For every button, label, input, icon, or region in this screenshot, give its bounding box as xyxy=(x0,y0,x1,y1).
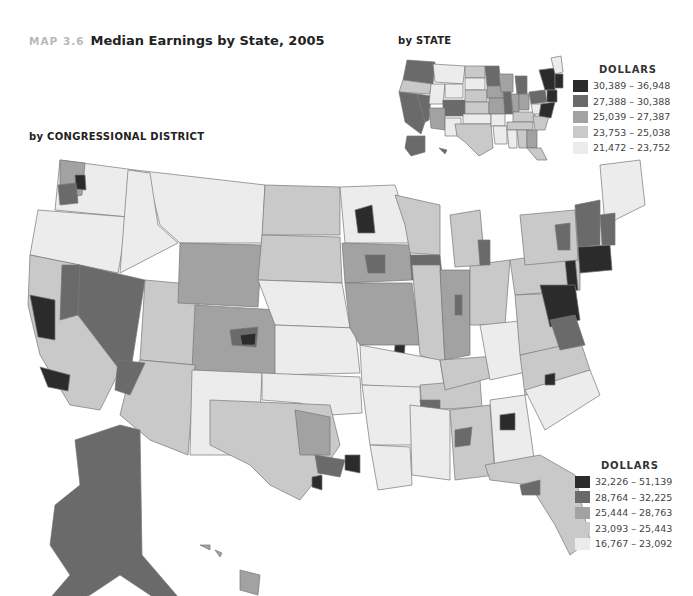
district-legend-item: 32,226 – 51,139 xyxy=(575,474,672,490)
state-legend-item: 30,389 – 36,948 xyxy=(573,78,670,94)
legend-swatch xyxy=(575,522,590,534)
legend-swatch xyxy=(573,142,588,154)
district-legend-item: 25,444 – 28,763 xyxy=(575,505,672,521)
state-legend-item: 27,388 – 30,388 xyxy=(573,94,670,110)
legend-swatch xyxy=(575,538,590,550)
legend-swatch xyxy=(573,95,588,107)
main-subtitle: by CONGRESSIONAL DISTRICT xyxy=(29,131,204,142)
district-legend-item: 28,764 – 32,225 xyxy=(575,490,672,506)
legend-swatch xyxy=(573,80,588,92)
district-legend-item: 16,767 – 23,092 xyxy=(575,536,672,552)
district-legend: DOLLARS 32,226 – 51,139 28,764 – 32,225 … xyxy=(575,460,672,552)
state-legend-item: 23,753 – 25,038 xyxy=(573,125,670,141)
state-legend: DOLLARS 30,389 – 36,948 27,388 – 30,388 … xyxy=(573,64,670,156)
state-inset-map xyxy=(395,52,565,162)
legend-swatch xyxy=(573,111,588,123)
legend-swatch xyxy=(573,126,588,138)
map-title: MAP 3.6Median Earnings by State, 2005 xyxy=(29,33,325,48)
district-legend-item: 23,093 – 25,443 xyxy=(575,521,672,537)
legend-swatch xyxy=(575,476,590,488)
map-number: MAP 3.6 xyxy=(29,35,85,47)
inset-subtitle: by STATE xyxy=(398,35,451,46)
state-legend-title: DOLLARS xyxy=(573,64,670,75)
district-legend-title: DOLLARS xyxy=(575,460,672,471)
legend-swatch xyxy=(575,507,590,519)
state-legend-item: 21,472 – 23,752 xyxy=(573,140,670,156)
state-legend-item: 25,039 – 27,387 xyxy=(573,109,670,125)
legend-swatch xyxy=(575,491,590,503)
map-title-text: Median Earnings by State, 2005 xyxy=(91,33,325,48)
